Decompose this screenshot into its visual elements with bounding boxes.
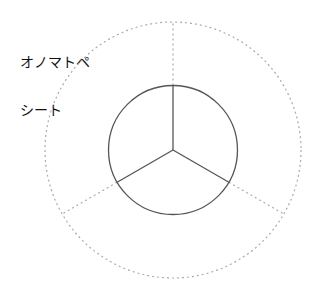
inner-spoke-2	[173, 150, 229, 182]
outer-dotted-spoke-3	[62, 182, 117, 214]
outer-dotted-spoke-2	[229, 182, 284, 214]
inner-spoke-3	[117, 150, 173, 182]
onomatopoeia-diagram	[0, 0, 321, 296]
